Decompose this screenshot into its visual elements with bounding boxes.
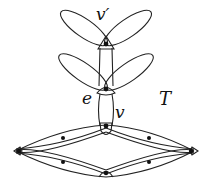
label-v: v — [115, 104, 125, 121]
vertex-bottom — [104, 171, 108, 175]
vertex-v — [104, 124, 109, 129]
vertex-right — [189, 149, 193, 153]
vertex-inner-ur — [147, 136, 151, 140]
vertex-left — [17, 149, 21, 153]
label-e: e — [82, 90, 92, 107]
mid-petal-right — [100, 48, 158, 96]
edge-bag-e — [99, 94, 114, 126]
edge-bag-upper — [99, 48, 113, 86]
tree-decomposition-diagram — [0, 0, 212, 187]
vertex-inner-lr — [147, 160, 151, 164]
vertex-inner-ll — [61, 160, 65, 164]
label-T: T — [159, 90, 171, 108]
vertex-v-prime — [104, 42, 109, 47]
label-v-prime: v′ — [96, 6, 109, 23]
vertex-mid — [104, 87, 109, 92]
vertex-inner-ul — [61, 136, 65, 140]
